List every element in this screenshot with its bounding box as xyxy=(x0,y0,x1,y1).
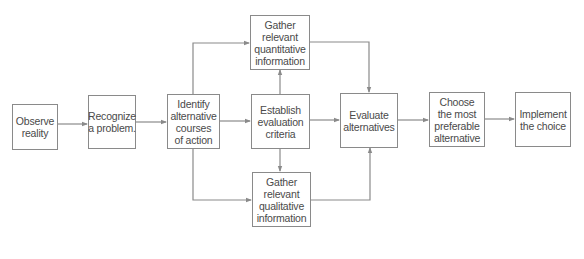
arrow-identify-to-quantitative xyxy=(193,43,249,94)
node-label: Recognize a problem. xyxy=(88,110,136,134)
node-label: Observe reality xyxy=(16,115,54,139)
node-identify-alternatives: Identify alternative courses of action xyxy=(167,94,220,149)
node-recognize-problem: Recognize a problem. xyxy=(88,95,136,149)
node-implement-choice: Implement the choice xyxy=(515,92,571,147)
node-label: Identify alternative courses of action xyxy=(170,98,216,146)
node-label: Evaluate alternatives xyxy=(343,109,394,133)
arrow-qualitative-to-evaluate xyxy=(310,148,370,200)
node-observe-reality: Observe reality xyxy=(12,104,58,150)
node-establish-criteria: Establish evaluation criteria xyxy=(251,94,310,149)
arrow-quantitative-to-evaluate xyxy=(309,42,369,92)
node-choose-alternative: Choose the most preferable alternative xyxy=(429,92,485,147)
arrow-identify-to-qualitative xyxy=(193,148,251,200)
node-gather-quantitative: Gather relevant quantitative information xyxy=(250,15,310,70)
node-gather-qualitative: Gather relevant qualitative information xyxy=(252,172,311,227)
node-label: Implement the choice xyxy=(519,108,566,132)
node-evaluate-alternatives: Evaluate alternatives xyxy=(340,93,398,148)
node-label: Gather relevant qualitative information xyxy=(257,176,307,224)
node-label: Establish evaluation criteria xyxy=(258,104,304,140)
node-label: Gather relevant quantitative information xyxy=(254,19,305,67)
decision-flowchart: Observe reality Recognize a problem. Ide… xyxy=(0,0,584,259)
node-label: Choose the most preferable alternative xyxy=(434,96,480,144)
